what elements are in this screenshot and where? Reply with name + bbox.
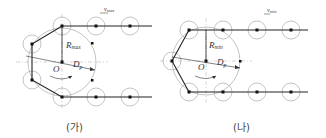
- center-label: O: [53, 64, 60, 74]
- caption-na: (나): [233, 119, 250, 134]
- diameter-label: Dp: [72, 59, 83, 70]
- diagram-na: vmin Rmin O Dp: [160, 7, 308, 104]
- diameter-arrowhead: [90, 67, 95, 71]
- roller-circles: [163, 21, 300, 101]
- radius-label: Rmin: [208, 40, 223, 50]
- velocity-label: vmax: [104, 6, 114, 13]
- center-label: O: [198, 62, 205, 72]
- diagram-ga: vmax Rmax O Dp: [16, 6, 152, 108]
- diagram-canvas: vmax Rmax O Dp: [0, 0, 326, 138]
- chain-links: [32, 26, 152, 97]
- radius-label: Rmax: [65, 40, 81, 50]
- roller-circles: [23, 17, 139, 106]
- velocity-label: vmin: [267, 7, 277, 14]
- caption-ga: (가): [66, 119, 83, 134]
- diameter-label: Dp: [216, 57, 227, 68]
